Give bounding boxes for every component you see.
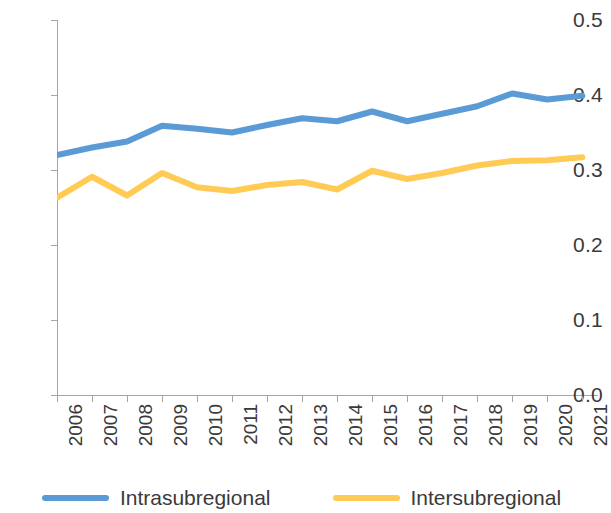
- series-lines: [57, 20, 598, 395]
- plot-area: [57, 20, 598, 395]
- x-tick-mark: [92, 396, 93, 402]
- x-tick-mark: [372, 396, 373, 402]
- legend-swatch-icon: [42, 495, 109, 501]
- x-tick-label: 2021: [591, 404, 610, 446]
- x-tick-label: 2013: [311, 404, 330, 446]
- x-tick-mark: [267, 396, 268, 402]
- legend-item-intersubregional: Intersubregional: [333, 487, 562, 508]
- x-tick-label: 2008: [136, 404, 155, 446]
- series-line-intersubregional: [57, 157, 582, 198]
- x-tick-label: 2012: [276, 404, 295, 446]
- x-tick-label: 2016: [416, 404, 435, 446]
- x-tick-label: 2006: [66, 404, 85, 446]
- x-tick-label: 2020: [556, 404, 575, 446]
- x-tick-mark: [442, 396, 443, 402]
- x-tick-mark: [302, 396, 303, 402]
- legend-label: Intersubregional: [411, 487, 562, 508]
- x-tick-label: 2009: [171, 404, 190, 446]
- x-tick-mark: [127, 396, 128, 402]
- x-tick-label: 2018: [486, 404, 505, 446]
- chart-legend: Intrasubregional Intersubregional: [0, 482, 603, 513]
- x-tick-label: 2014: [346, 404, 365, 446]
- x-tick-mark: [197, 396, 198, 402]
- x-tick-label: 2017: [451, 404, 470, 446]
- legend-label: Intrasubregional: [120, 487, 271, 508]
- legend-swatch-icon: [333, 495, 400, 501]
- x-tick-mark: [162, 396, 163, 402]
- x-tick-label: 2015: [381, 404, 400, 446]
- x-axis-line: [57, 395, 598, 396]
- legend-item-intrasubregional: Intrasubregional: [42, 487, 271, 508]
- x-tick-mark: [547, 396, 548, 402]
- x-tick-label: 2011: [241, 404, 260, 445]
- x-tick-mark: [582, 396, 583, 402]
- x-tick-label: 2010: [206, 404, 225, 446]
- series-line-intrasubregional: [57, 94, 582, 156]
- x-tick-label: 2019: [521, 404, 540, 446]
- x-tick-mark: [337, 396, 338, 402]
- x-tick-mark: [477, 396, 478, 402]
- x-tick-mark: [512, 396, 513, 402]
- x-tick-mark: [407, 396, 408, 402]
- x-tick-mark: [232, 396, 233, 402]
- x-tick-label: 2007: [101, 404, 120, 446]
- x-tick-mark: [57, 396, 58, 402]
